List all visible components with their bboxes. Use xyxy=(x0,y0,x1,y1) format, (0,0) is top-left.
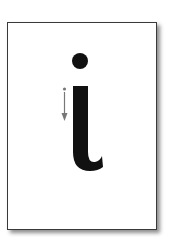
letter-dot xyxy=(72,53,88,69)
letter-i-glyph xyxy=(0,0,170,242)
letter-stem xyxy=(73,86,103,171)
stroke-direction-arrow-icon xyxy=(62,87,68,121)
